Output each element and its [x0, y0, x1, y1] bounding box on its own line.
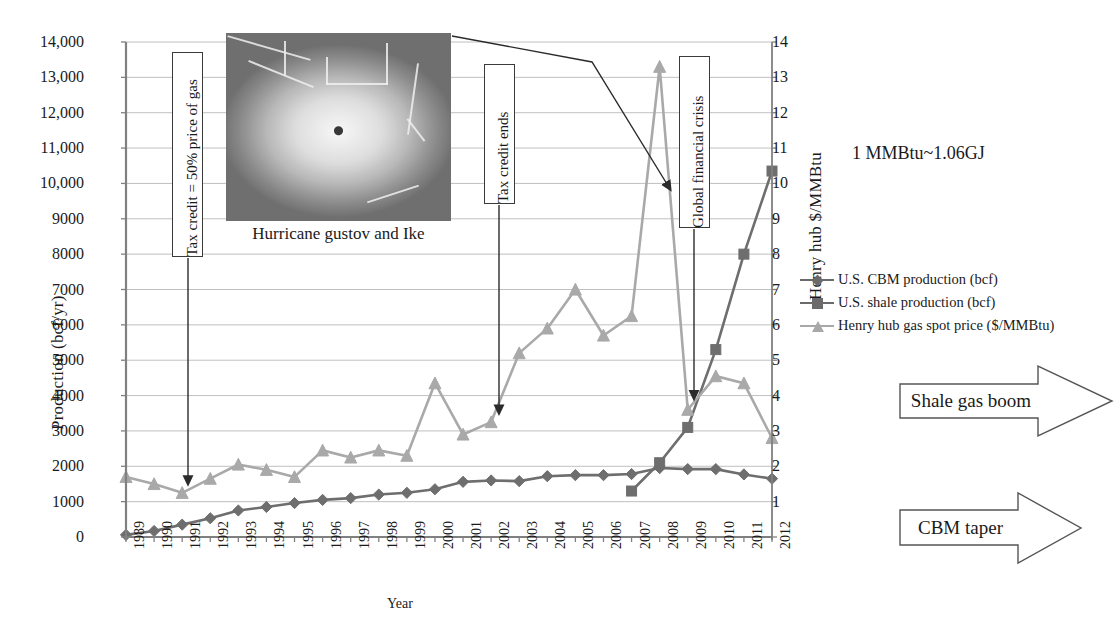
legend-label: Henry hub gas spot price ($/MMBtu) [838, 317, 1054, 334]
x-tick: 1998 [385, 521, 401, 549]
x-tick: 1992 [216, 521, 232, 549]
x-tick: 2000 [441, 521, 457, 549]
x-tick: 2011 [750, 522, 766, 549]
y-right-tick: 11 [772, 140, 800, 156]
y-right-tick: 13 [772, 69, 800, 85]
y-left-tick: 13,000 [22, 69, 84, 85]
block-arrow-shale-gas-boom: Shale gas boom [898, 362, 1114, 440]
y-left-tick: 1000 [22, 494, 84, 510]
legend-item-2[interactable]: Henry hub gas spot price ($/MMBtu) [800, 314, 1054, 337]
y-right-tick: 4 [772, 388, 800, 404]
callout-tax-credit-ends: Tax credit ends [484, 64, 515, 204]
x-tick: 2008 [666, 521, 682, 549]
x-tick: 2007 [638, 521, 654, 549]
y-right-tick: 9 [772, 211, 800, 227]
y-right-tick: 14 [772, 34, 800, 50]
callout-global-financial-crisis: Global financial crisis [679, 56, 710, 228]
y-axis-left-title: Production (bcf/yr) [48, 130, 68, 430]
y-left-tick: 12,000 [22, 105, 84, 121]
x-tick: 1997 [357, 521, 373, 549]
y-right-tick: 12 [772, 105, 800, 121]
x-tick: 1994 [272, 521, 288, 549]
x-tick: 2006 [609, 521, 625, 549]
square-marker-icon [800, 296, 834, 310]
x-tick: 2001 [469, 521, 485, 549]
x-tick: 2005 [581, 521, 597, 549]
y-right-tick: 1 [772, 494, 800, 510]
y-right-tick: 3 [772, 423, 800, 439]
y-left-tick: 14,000 [22, 34, 84, 50]
x-tick: 1995 [301, 521, 317, 549]
x-axis-title: Year [0, 596, 800, 612]
x-tick: 2009 [694, 521, 710, 549]
legend-label: U.S. shale production (bcf) [838, 294, 995, 311]
y-right-tick: 7 [772, 282, 800, 298]
x-tick: 2010 [722, 521, 738, 549]
y-right-tick: 2 [772, 458, 800, 474]
x-tick: 1996 [329, 521, 345, 549]
figure-root: 010002000300040005000600070008000900010,… [0, 0, 1114, 632]
chart-legend: U.S. CBM production (bcf)U.S. shale prod… [800, 268, 1054, 337]
triangle-marker-icon [800, 319, 834, 333]
x-tick: 2012 [778, 521, 794, 549]
hurricane-satellite-image [226, 33, 451, 221]
hurricane-image-caption: Hurricane gustov and Ike [226, 224, 451, 244]
y-right-tick: 6 [772, 317, 800, 333]
y-right-tick: 8 [772, 246, 800, 262]
x-tick: 2003 [525, 521, 541, 549]
x-tick: 1991 [188, 521, 204, 549]
y-right-tick: 5 [772, 352, 800, 368]
y-axis-right-title: Henry hub $/MMBtu [806, 0, 826, 300]
block-arrow-shale-label: Shale gas boom [898, 362, 1114, 440]
legend-label: U.S. CBM production (bcf) [838, 271, 998, 288]
unit-conversion-note: 1 MMBtu~1.06GJ [852, 143, 985, 164]
x-tick: 1999 [413, 521, 429, 549]
x-tick: 1993 [244, 521, 260, 549]
x-tick: 1990 [160, 521, 176, 549]
legend-item-1[interactable]: U.S. shale production (bcf) [800, 291, 1054, 314]
block-arrow-cbm-taper: CBM taper [898, 490, 1083, 566]
legend-item-0[interactable]: U.S. CBM production (bcf) [800, 268, 1054, 291]
block-arrow-cbm-label: CBM taper [898, 490, 1083, 566]
x-tick: 2002 [497, 521, 513, 549]
y-left-tick: 0 [22, 529, 84, 545]
y-right-tick: 10 [772, 175, 800, 191]
callout-tax-credit-start: Tax credit = 50% price of gas [172, 52, 203, 257]
x-tick: 1989 [132, 521, 148, 549]
y-left-tick: 2000 [22, 458, 84, 474]
diamond-marker-icon [800, 273, 834, 287]
x-tick: 2004 [553, 521, 569, 549]
